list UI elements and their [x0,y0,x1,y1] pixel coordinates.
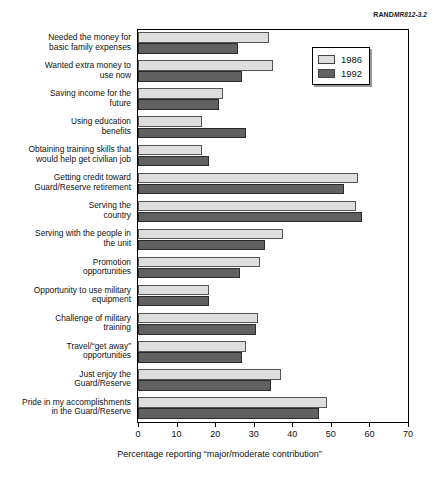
x-tick [254,422,255,427]
x-tick [292,422,293,427]
legend-swatch-1986 [318,55,335,64]
category-label: Serving with the people inthe unit [0,229,131,248]
bar-1992 [138,380,271,391]
legend-label-1992: 1992 [341,68,362,79]
category-label: Pride in my accomplishmentsin the Guard/… [0,398,131,417]
category-label-line: benefits [0,127,131,137]
bar-1992 [138,128,246,139]
x-axis: 010203040506070 [137,422,409,423]
category-label-line: in the Guard/Reserve [0,407,131,417]
bar-1986 [138,341,246,352]
x-tick-label: 60 [357,429,381,439]
category-label-line: Guard/Reserve [0,379,131,389]
x-axis-title: Percentage reporting “major/moderate con… [0,449,439,459]
category-label: Obtaining training skills thatwould help… [0,145,131,164]
category-label-line: opportunities [0,351,131,361]
bar-1992 [138,240,265,251]
category-label-line: opportunities [0,267,131,277]
x-tick-label: 30 [242,429,266,439]
bar-1986 [138,116,202,127]
category-label-line: Guard/Reserve retirement [0,183,131,193]
category-label: Saving income for thefuture [0,89,131,108]
source-label-code: MR812-3.2 [394,11,427,18]
x-tick-label: 0 [126,429,150,439]
bar-1992 [138,43,238,54]
source-label-prefix: RAND [373,11,394,18]
x-tick [177,422,178,427]
category-label-line: equipment [0,295,131,305]
category-label: Opportunity to use militaryequipment [0,286,131,305]
bar-1992 [138,352,242,363]
bar-1986 [138,173,358,184]
bar-1992 [138,324,256,335]
category-label-line: use now [0,71,131,81]
category-label: Travel/“get away”opportunities [0,342,131,361]
x-tick [138,422,139,427]
bar-1986 [138,60,273,71]
bar-1992 [138,212,362,223]
bar-1986 [138,88,223,99]
bar-1992 [138,184,344,195]
bar-1992 [138,296,209,307]
legend-item-1992: 1992 [318,66,362,80]
bar-1992 [138,268,240,279]
category-label-line: training [0,323,131,333]
category-label: Using educationbenefits [0,117,131,136]
category-label-line: basic family expenses [0,43,131,53]
x-tick [369,422,370,427]
bar-1986 [138,313,258,324]
category-label: Just enjoy theGuard/Reserve [0,370,131,389]
chart-figure: RANDMR812-3.2 Needed the money forbasic … [0,0,439,480]
x-tick [408,422,409,427]
bar-1986 [138,201,356,212]
category-label-line: the unit [0,239,131,249]
x-tick [331,422,332,427]
category-label: Getting credit towardGuard/Reserve retir… [0,173,131,192]
bar-1992 [138,156,209,167]
category-label: Needed the money forbasic family expense… [0,33,131,52]
bar-1992 [138,99,219,110]
x-tick-label: 20 [203,429,227,439]
category-label-line: future [0,99,131,109]
legend-label-1986: 1986 [341,54,362,65]
category-label: Challenge of militarytraining [0,314,131,333]
source-label: RANDMR812-3.2 [373,11,427,18]
bar-1986 [138,257,260,268]
bar-1986 [138,145,202,156]
x-tick-label: 10 [165,429,189,439]
x-tick-label: 40 [280,429,304,439]
bar-rows-container: Needed the money forbasic family expense… [0,29,439,423]
bar-1986 [138,229,283,240]
bar-1986 [138,397,327,408]
legend-swatch-1992 [318,69,335,78]
legend-item-1986: 1986 [318,52,362,66]
category-label-line: country [0,211,131,221]
category-label: Wanted extra money touse now [0,61,131,80]
bar-1986 [138,285,209,296]
category-label: Promotionopportunities [0,258,131,277]
bar-1986 [138,32,269,43]
bar-1992 [138,408,319,419]
chart-legend: 1986 1992 [312,47,370,85]
bar-1992 [138,71,242,82]
x-tick [215,422,216,427]
x-tick-label: 70 [396,429,420,439]
category-label: Serving thecountry [0,201,131,220]
category-label-line: would help get civilian job [0,155,131,165]
x-tick-label: 50 [319,429,343,439]
bar-1986 [138,369,281,380]
